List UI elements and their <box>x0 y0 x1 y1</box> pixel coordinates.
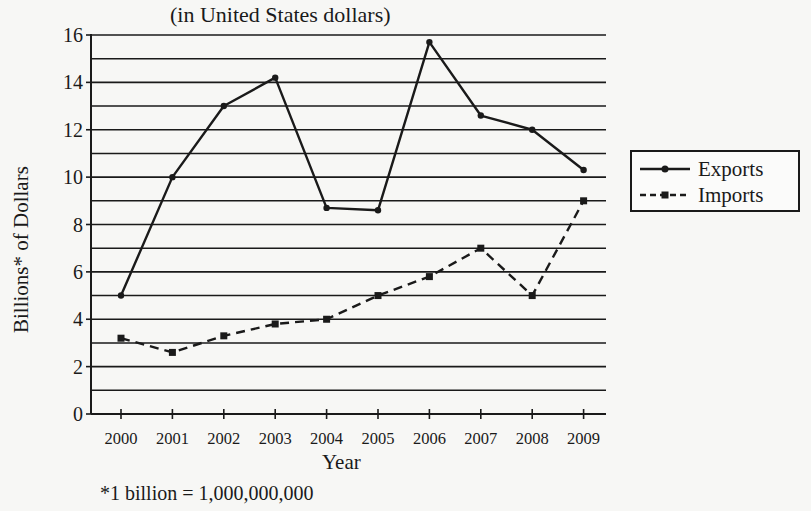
series-line-imports <box>121 201 584 353</box>
legend-label-exports: Exports <box>698 157 763 182</box>
data-point-exports <box>323 205 329 211</box>
plot-area: 0246810121416200020012002200320042005200… <box>0 0 811 511</box>
data-point-exports <box>272 74 278 80</box>
x-tick-label: 2007 <box>464 429 497 448</box>
data-point-exports <box>426 39 432 45</box>
legend-item-exports: Exports <box>640 156 763 182</box>
data-point-exports <box>169 174 175 180</box>
x-tick-label: 2001 <box>156 429 189 448</box>
data-point-imports <box>272 320 279 327</box>
data-point-imports <box>323 316 330 323</box>
x-tick-label: 2002 <box>207 429 240 448</box>
data-point-exports <box>529 127 535 133</box>
data-point-imports <box>375 292 382 299</box>
legend-item-imports: Imports <box>640 182 763 208</box>
y-tick-label: 2 <box>73 356 83 378</box>
x-tick-label: 2005 <box>362 429 395 448</box>
data-point-imports <box>118 335 125 342</box>
x-tick-label: 2009 <box>567 429 600 448</box>
data-point-exports <box>118 292 124 298</box>
data-point-exports <box>375 207 381 213</box>
dashed-line-marker-icon <box>640 188 690 202</box>
x-tick-label: 2004 <box>310 429 343 448</box>
chart: (in United States dollars) 0246810121416… <box>0 0 811 511</box>
data-point-exports <box>221 103 227 109</box>
data-point-exports <box>580 167 586 173</box>
y-tick-label: 12 <box>63 119 83 141</box>
x-tick-label: 2000 <box>105 429 138 448</box>
y-tick-label: 0 <box>73 403 83 425</box>
solid-line-marker-icon <box>640 162 690 176</box>
y-tick-label: 4 <box>73 308 83 330</box>
data-point-imports <box>426 273 433 280</box>
data-point-imports <box>220 332 227 339</box>
legend: Exports Imports <box>630 150 800 212</box>
y-tick-label: 8 <box>73 214 83 236</box>
y-tick-label: 6 <box>73 261 83 283</box>
series-line-exports <box>121 42 584 295</box>
x-tick-label: 2006 <box>413 429 446 448</box>
y-tick-label: 10 <box>63 166 83 188</box>
y-axis-label: Billions* of Dollars <box>9 166 34 333</box>
data-point-imports <box>169 349 176 356</box>
data-point-imports <box>580 197 587 204</box>
x-tick-label: 2003 <box>259 429 292 448</box>
footnote: *1 billion = 1,000,000,000 <box>100 482 314 505</box>
x-tick-label: 2008 <box>516 429 549 448</box>
y-tick-label: 16 <box>63 24 83 46</box>
data-point-exports <box>478 112 484 118</box>
x-axis-label: Year <box>322 450 361 475</box>
data-point-imports <box>477 245 484 252</box>
data-point-imports <box>529 292 536 299</box>
legend-label-imports: Imports <box>698 183 763 208</box>
y-tick-label: 14 <box>63 71 83 93</box>
